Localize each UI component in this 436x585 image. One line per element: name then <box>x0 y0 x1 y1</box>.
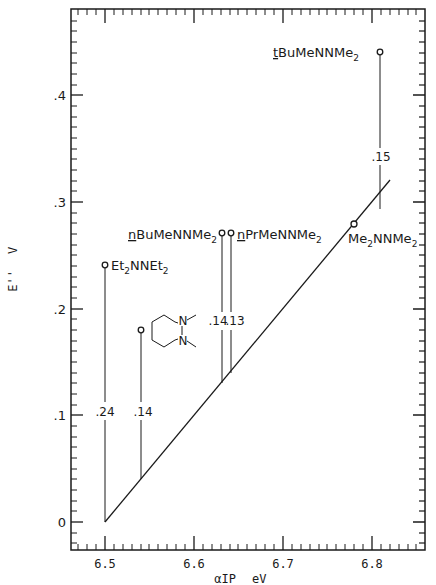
y-tick-label: .1 <box>54 408 66 423</box>
x-tick-label: 6.5 <box>94 557 116 571</box>
x-axis-title: αIP eV <box>214 572 266 585</box>
chart-canvas: 6.5 6.6 6.7 6.8 0 .1 .2 .3 .4 αIP eV E''… <box>0 0 436 585</box>
x-tick-label: 6.8 <box>361 557 383 571</box>
label-et2nnet2: Et2NNEt2 <box>111 258 169 276</box>
y-tick-label: .2 <box>54 302 66 317</box>
y-tick-label: .4 <box>54 88 66 103</box>
point-et2nnet2 <box>102 262 108 268</box>
ring-n2-label: N <box>179 334 188 348</box>
label-tbumennme2: tBuMeNNMe2 <box>273 45 359 63</box>
ring-n1-label: N <box>179 314 188 328</box>
ring-structure-icon <box>152 315 196 347</box>
drop-lines <box>105 55 380 522</box>
plot-frame <box>71 9 425 550</box>
point-tbumennme2 <box>377 49 383 55</box>
x-axis-ticks-top <box>78 9 416 23</box>
label-nprmennme2: nPrMeNNMe2 <box>237 227 322 245</box>
point-nprmennme2 <box>228 230 234 236</box>
y-axis-ticks-left <box>71 21 83 543</box>
y-axis-title: E'' V <box>6 247 20 292</box>
y-axis-ticks-right <box>413 21 425 543</box>
drop-label-ring: .14 <box>133 405 152 419</box>
drop-label-et2: .24 <box>95 405 114 419</box>
x-tick-label: 6.6 <box>183 557 205 571</box>
drop-label-npr: .13 <box>225 314 244 328</box>
y-axis-label: E'' <box>6 270 20 292</box>
drop-label-tbu: .15 <box>371 150 390 164</box>
x-axis-unit: eV <box>252 572 266 585</box>
y-tick-label: .3 <box>54 195 66 210</box>
x-axis-label: αIP <box>214 572 236 585</box>
y-axis-unit: V <box>6 247 20 254</box>
point-me2nnme2 <box>351 221 357 227</box>
label-nbumennme2: nBuMeNNMe2 <box>128 227 217 245</box>
point-nbumennme2 <box>219 230 225 236</box>
point-ring <box>138 327 144 333</box>
label-me2nnme2: Me2NNMe2 <box>348 231 417 249</box>
data-points <box>102 49 383 333</box>
y-tick-label: 0 <box>58 515 66 530</box>
x-tick-label: 6.7 <box>272 557 294 571</box>
x-axis-ticks-bottom <box>78 536 416 550</box>
